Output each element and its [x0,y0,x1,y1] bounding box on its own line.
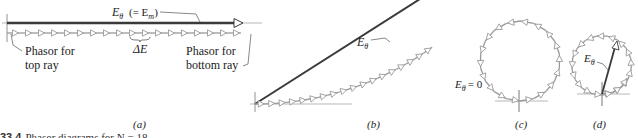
panel-d: Eθ (d) [569,33,634,131]
phasor-arrowhead [208,30,214,36]
phasor-diagram-figure: Eθ (= Em) ΔE Phasor for top ray Phasor f… [0,0,638,138]
phasor-arrowhead [535,24,542,30]
delta-e-label: ΔE [132,42,148,56]
resultant-leader-d [597,62,608,70]
resultant-leader-a [160,12,200,22]
phasor-arrowhead [360,82,367,88]
phasor-arrowhead [169,30,175,36]
phasor-arrowhead [609,36,616,42]
phasor-arrowhead [556,56,562,62]
phasor-arrowhead [13,30,19,36]
phasor-arrowhead [320,94,326,100]
phasor-arrowhead [573,50,579,57]
phasor-arrowhead [388,70,395,76]
phasor-arrowhead [512,97,518,103]
phasor-arrowhead [424,48,431,54]
resultant-label-d: Eθ [583,52,595,67]
phasor-arrowhead [480,46,486,53]
phasor-arrowhead [626,49,632,56]
phasor-arrowhead [39,30,45,36]
panel-label-b: (b) [367,118,380,131]
bottom-ray-label-line2: bottom ray [186,58,238,72]
phasor-arrowhead [598,33,604,39]
phasor-arrowhead [330,91,336,97]
zero-label-c: Eθ= 0 [454,78,483,93]
phasor-arrowhead [52,30,58,36]
panel-c: Eθ= 0 (c) [454,19,563,131]
phasor-arrowhead [269,100,275,106]
phasor-arrowhead [498,92,505,98]
phasor-arrowhead [78,30,84,36]
phasor-arrowhead [104,30,110,36]
phasor-arrowhead [626,70,632,77]
phasor-arrowhead [340,89,346,95]
phasor-arrowhead [65,30,71,36]
resultant-line-d [602,47,615,94]
phasor-arrowhead [117,30,123,36]
phasor-chain-b [255,47,432,107]
phasor-arrowhead [538,92,545,98]
panel-label-d: (d) [593,118,606,131]
phasor-arrowhead [570,72,576,79]
phasor-arrowhead [526,97,532,103]
phasor-arrowhead [508,19,514,25]
phasor-arrowhead [300,97,306,103]
resultant-line-b [255,0,420,104]
panel-label-a: (a) [133,118,146,131]
phasor-arrowhead [310,96,316,102]
bottom-ray-label-line1: Phasor for [186,44,236,58]
phasor-arrowhead [554,42,560,49]
phasor-arrowhead [91,30,97,36]
panel-label-c: (c) [515,118,528,131]
phasor-arrowhead [143,30,149,36]
resultant-arrowhead-a [234,19,243,28]
phasor-arrowhead [370,78,377,84]
phasor-chain-c [477,19,562,103]
phasor-arrowhead [595,91,601,97]
phasor-chain-a [7,30,241,36]
phasor-arrowhead [182,30,188,36]
resultant-leader-b [371,38,390,42]
phasor-arrowhead [234,30,240,36]
phasor-arrowhead [554,69,560,76]
top-ray-label-line1: Phasor for [25,44,75,58]
phasor-arrowhead [569,62,575,68]
phasor-arrowhead [350,85,356,91]
phasor-arrowhead [156,30,162,36]
phasor-arrowhead [258,101,264,107]
phasor-arrowhead [496,24,503,30]
phasor-arrowhead [379,74,386,80]
phasor-arrowhead [195,30,201,36]
resultant-note-a: (= Em) [129,6,158,21]
phasor-arrowhead [584,87,591,93]
phasor-arrowhead [521,19,527,25]
panel-b: Eθ (b) [250,0,432,131]
phasor-arrowhead [477,60,483,66]
phasor-arrowhead [587,35,594,41]
top-ray-label-line2: top ray [25,58,59,72]
figure-caption: 33.4Phasor diagrams for N = 18 [0,131,148,138]
resultant-label-b: Eθ [356,35,368,51]
phasor-arrowhead [221,30,227,36]
phasor-arrowhead [279,100,285,106]
bottom-ray-leader [243,34,251,66]
phasor-arrowhead [628,59,634,65]
phasor-arrowhead [26,30,32,36]
phasor-arrowhead [130,30,136,36]
panel-a: Eθ (= Em) ΔE Phasor for top ray Phasor f… [2,5,262,131]
resultant-label-a: Eθ [111,5,123,21]
